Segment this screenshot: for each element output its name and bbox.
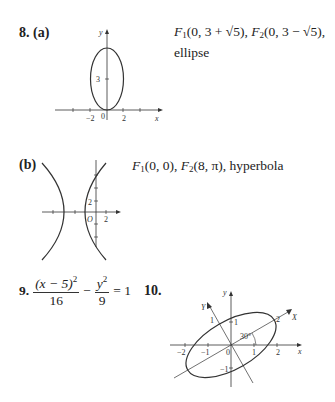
svg-text:1: 1 (234, 318, 238, 327)
answer-8b: F1(0, 0), F2(8, π), hyperbola (132, 157, 284, 178)
svg-text:y: y (222, 288, 227, 297)
focus-coords: (8, π), hyperbola (194, 158, 284, 173)
problem-9: 9. (x − 5)2 16 − y2 9 = 1 (19, 274, 131, 309)
focus-label: F (181, 158, 189, 173)
svg-text:Y: Y (201, 303, 207, 312)
denominator: 9 (95, 293, 110, 309)
numerator: (x − 5) (35, 276, 73, 291)
problem-number: 9. (19, 283, 29, 298)
problem-number-10: 10. (144, 283, 162, 299)
origin-label: O (87, 215, 93, 224)
ellipse-graph (55, 29, 163, 120)
minus-sign: − (83, 283, 91, 298)
exponent: 2 (103, 274, 108, 284)
svg-text:3: 3 (96, 75, 100, 84)
focus-coords: (0, 0), (145, 158, 181, 173)
fraction-y: y2 9 (95, 274, 110, 309)
svg-text:0: 0 (226, 348, 230, 357)
focus-label: F (132, 158, 140, 173)
part-label: (b) (19, 157, 36, 172)
svg-text:2: 2 (276, 348, 280, 357)
axis-label-x: x (154, 114, 159, 123)
fraction-x: (x − 5)2 16 (33, 274, 79, 309)
part-b-label: (b) (19, 157, 36, 173)
axis-label-y: y (98, 28, 103, 37)
svg-text:1: 1 (252, 348, 256, 357)
svg-text:0: 0 (101, 112, 105, 121)
exponent: 2 (73, 274, 78, 284)
svg-text:2: 2 (276, 315, 280, 324)
svg-text:−1: −1 (201, 348, 210, 357)
svg-text:−1: −1 (220, 365, 229, 374)
svg-text:−2: −2 (86, 114, 95, 123)
problem-number: 10. (144, 283, 162, 298)
graphs-canvas: y x −2 0 2 3 2 O 2 (0, 0, 335, 402)
svg-text:2: 2 (122, 114, 126, 123)
svg-text:2: 2 (104, 215, 108, 224)
equals-one: = 1 (113, 283, 131, 298)
denominator: 16 (33, 293, 79, 309)
rotated-ellipse-graph (170, 291, 302, 391)
svg-text:30°: 30° (240, 332, 251, 341)
svg-text:2: 2 (88, 198, 92, 207)
svg-text:−2: −2 (177, 348, 186, 357)
svg-text:x: x (297, 347, 302, 356)
hyperbola-graph (42, 160, 121, 260)
svg-text:1: 1 (210, 316, 214, 325)
svg-text:X: X (291, 313, 298, 322)
